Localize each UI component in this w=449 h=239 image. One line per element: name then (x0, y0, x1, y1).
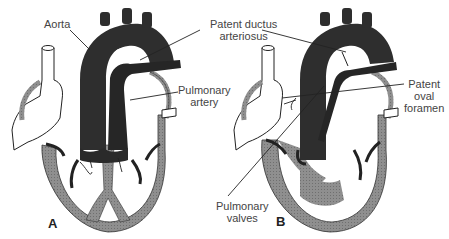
label-aorta: Aorta (44, 18, 70, 30)
heart-a (12, 8, 181, 232)
label-pda-line2: arteriosus (210, 30, 277, 42)
label-pda-line1: Patent ductus (210, 18, 277, 30)
label-pv-line2: valves (216, 212, 269, 224)
label-patent-ductus-arteriosus: Patent ductus arteriosus (210, 18, 277, 42)
vena-cava-b (234, 48, 283, 150)
label-patent-oval-foramen: Patent oval foramen (404, 78, 444, 114)
heart-diagram: Aorta Patent ductus arteriosus Pulmonary… (0, 0, 449, 239)
vena-cava-a (12, 48, 63, 150)
label-pa-line1: Pulmonary (178, 84, 231, 96)
label-pfo-line1: Patent (404, 78, 444, 90)
panel-label-b: B (276, 214, 285, 229)
label-pv-line1: Pulmonary (216, 200, 269, 212)
label-pulmonary-valves: Pulmonary valves (216, 200, 269, 224)
label-pulmonary-artery: Pulmonary artery (178, 84, 231, 108)
panel-label-a: A (48, 216, 57, 231)
label-pfo-line2: oval (404, 90, 444, 102)
label-pfo-line3: foramen (404, 102, 444, 114)
label-pa-line2: artery (178, 96, 231, 108)
